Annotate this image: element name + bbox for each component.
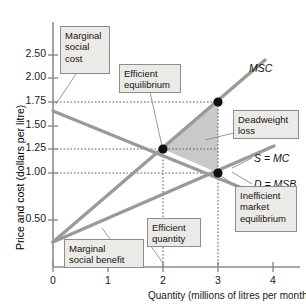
callout-efficient-equilibrium: Efficient equilibrium [119,64,181,93]
callout-inefficient-market-equilibrium: Inefficient market equilibrium [235,186,297,232]
x-tick-label-1: 1 [98,275,118,287]
y-tick-label-200: 2.00 [6,71,46,83]
callout-deadweight-loss: Deadweight loss [233,110,299,139]
leader-demand-label [232,172,252,184]
y-tick-label-150: 1.50 [6,119,46,131]
y-tick-label-050: 0.50 [6,213,46,225]
y-tick-label-125: 1.25 [6,142,46,154]
leader-efficient-equilibrium [150,92,162,146]
callout-marginal-social-cost: Marginal social cost [60,26,110,74]
y-tick-label-100: 1.00 [6,166,46,178]
marker-inefficient-market-equilibrium [213,168,222,177]
x-tick-label-4: 4 [263,275,283,287]
curve-label-msc: MSC [249,62,272,74]
callout-marginal-social-benefit: Marginal social benefit [64,239,144,268]
deadweight-loss-region [163,102,218,173]
x-tick-label-3: 3 [208,275,228,287]
x-axis-title: Quantity (millions of litres per month) [148,290,306,301]
marker-msc-at-market-quantity [213,97,222,106]
callout-efficient-quantity: Efficient quantity [147,218,201,247]
marker-efficient-equilibrium [158,144,167,153]
x-tick-label-2: 2 [153,275,173,287]
y-tick-label-175: 1.75 [6,95,46,107]
x-tick-label-0: 0 [43,275,63,287]
curve-label-supply: S = MC [254,152,289,164]
leader-efficient-quantity [150,245,163,263]
y-tick-label-250: 2.50 [6,48,46,60]
leader-marginal-social-cost [56,74,76,104]
